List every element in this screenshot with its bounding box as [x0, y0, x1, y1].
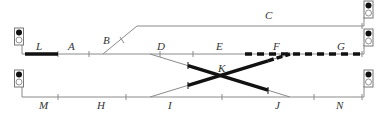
signal-off-lamp [366, 38, 372, 44]
label-B: B [103, 34, 110, 46]
signal-right-lower[interactable] [364, 70, 373, 97]
signal-off-lamp [16, 79, 22, 85]
signal-left-upper[interactable] [15, 28, 24, 54]
signal-red-lamp [16, 72, 22, 78]
label-D: D [156, 40, 165, 52]
signal-right-top[interactable] [364, 1, 373, 26]
signal-red-lamp [366, 3, 372, 9]
signal-red-lamp [366, 72, 372, 78]
track-diagram: L A B C D E F G K M H I J N [0, 0, 380, 120]
signal-right-middle[interactable] [364, 29, 373, 54]
section-K-occupied[interactable] [188, 61, 268, 94]
label-H: H [96, 99, 106, 111]
signal-off-lamp [366, 79, 372, 85]
label-C: C [265, 9, 273, 21]
signal-left-lower[interactable] [15, 70, 24, 97]
label-F: F [272, 40, 280, 52]
signal-off-lamp [366, 10, 372, 16]
label-M: M [38, 99, 49, 111]
signal-red-lamp [366, 31, 372, 37]
lower-main-track [22, 94, 364, 100]
signal-off-lamp [16, 37, 22, 43]
label-E: E [215, 40, 223, 52]
label-A: A [67, 40, 75, 52]
label-G: G [337, 40, 345, 52]
label-K: K [217, 62, 226, 74]
label-L: L [35, 40, 42, 52]
label-J: J [275, 99, 281, 111]
label-N: N [335, 99, 344, 111]
signal-red-lamp [16, 30, 22, 36]
siding-track-C [103, 23, 364, 54]
label-I: I [167, 99, 173, 111]
